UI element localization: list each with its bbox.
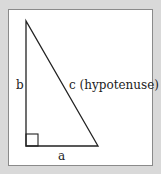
label-side-a: a: [58, 149, 65, 163]
right-angle-marker: [26, 134, 38, 146]
label-side-b: b: [16, 78, 24, 92]
label-side-c: c (hypotenuse): [69, 78, 159, 92]
right-triangle-diagram: b c (hypotenuse) a: [0, 0, 161, 174]
